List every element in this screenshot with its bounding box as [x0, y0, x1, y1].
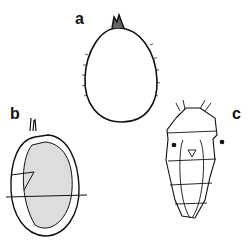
- illustration: [0, 0, 252, 251]
- panel-label-b: b: [10, 106, 20, 122]
- panel-a-drawing: [82, 15, 160, 122]
- figure: a b c: [0, 0, 252, 251]
- panel-c-drawing: [166, 100, 224, 218]
- panel-label-a: a: [75, 11, 84, 27]
- panel-b-drawing: [6, 118, 87, 236]
- panel-label-c: c: [232, 106, 241, 122]
